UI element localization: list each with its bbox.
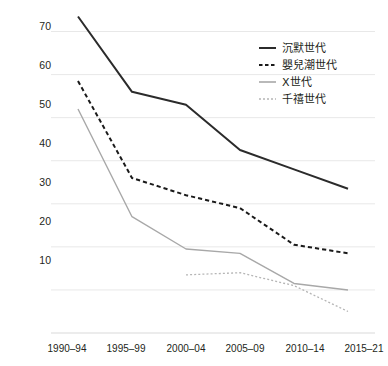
legend-line-dashed-dark-icon bbox=[259, 59, 276, 71]
legend-item-millennial[interactable]: 千禧世代 bbox=[259, 91, 379, 107]
legend-item-boomer[interactable]: 嬰兒潮世代 bbox=[259, 57, 379, 73]
legend-item-genx[interactable]: X世代 bbox=[259, 74, 379, 90]
legend-label: 千禧世代 bbox=[282, 94, 326, 105]
legend-line-solid-dark-icon bbox=[259, 42, 276, 54]
legend-line-solid-grey-icon bbox=[259, 76, 276, 88]
legend-label: 嬰兒潮世代 bbox=[282, 60, 337, 71]
legend-label: X世代 bbox=[282, 77, 312, 88]
legend-line-dotted-grey-icon bbox=[259, 93, 276, 105]
series-line-2 bbox=[78, 109, 348, 290]
series-line-3 bbox=[186, 273, 348, 312]
legend: 沉默世代 嬰兒潮世代 X世代 千禧世代 bbox=[259, 40, 379, 108]
legend-item-silent[interactable]: 沉默世代 bbox=[259, 40, 379, 56]
x-tick-label: 2015–21 bbox=[317, 344, 388, 354]
legend-label: 沉默世代 bbox=[282, 43, 326, 54]
